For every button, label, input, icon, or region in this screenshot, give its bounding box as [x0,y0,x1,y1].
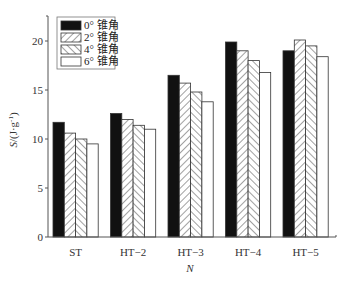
bar-group-ht-2 [111,114,156,238]
bar [226,42,237,237]
bar [237,51,248,237]
legend: 0° 锥角 2° 锥角 4° 锥角 6° 锥角 [57,17,119,69]
legend-item-3: 6° 锥角 [61,55,119,67]
bar [283,51,294,237]
y-tick-label: 10 [32,133,44,145]
bar [191,92,202,237]
bar [294,40,305,237]
bars-group [53,40,328,237]
y-tick-label: 20 [32,35,44,47]
bar [64,133,75,237]
bar [317,57,328,237]
legend-item-2: 4° 锥角 [61,43,119,55]
bar [202,102,213,237]
x-tick-label: HT−5 [292,246,319,258]
x-ticks: STHT−2HT−3HT−4HT−5 [69,246,319,258]
legend-swatch-hatch-left-icon [61,45,81,54]
legend-swatch-white-icon [61,57,81,66]
legend-label: 0° 锥角 [84,19,119,31]
y-tick-label: 5 [38,182,44,194]
y-tick-label: 0 [38,231,44,243]
bar [306,46,317,237]
bar [76,139,87,237]
legend-label: 2° 锥角 [84,31,119,43]
bar [111,114,122,238]
bar [179,83,190,237]
y-tick-label: 15 [32,84,44,96]
bar-group-ht-5 [283,40,328,237]
bar [248,61,259,237]
bar [133,125,144,237]
legend-item-0: 0° 锥角 [61,19,119,31]
bar [122,119,133,237]
x-axis-label: N [185,262,194,274]
bar-chart: 05101520 STHT−2HT−3HT−4HT−5 N S/(J·g-1) … [0,0,351,291]
y-axis-label: S/(J·g-1) [7,112,20,148]
x-tick-label: ST [69,246,82,258]
bar-group-ht-3 [168,75,213,237]
bar [259,72,270,237]
y-axis-label-unit: /(J·g [7,121,20,142]
bar [144,129,155,237]
bar-group-ht-4 [226,42,271,237]
legend-swatch-hatch-right-icon [61,33,81,42]
bar-group-st [53,122,98,237]
legend-label: 4° 锥角 [84,43,119,55]
bar [53,122,64,237]
legend-item-1: 2° 锥角 [61,31,119,43]
x-tick-label: HT−3 [177,246,204,258]
y-axis-label-close: ) [7,112,20,116]
bar [87,144,98,237]
legend-swatch-solid-icon [61,21,81,30]
x-tick-label: HT−4 [235,246,262,258]
y-ticks: 05101520 [32,35,48,243]
x-tick-label: HT−2 [120,246,146,258]
legend-label: 6° 锥角 [84,55,119,67]
bar [168,75,179,237]
